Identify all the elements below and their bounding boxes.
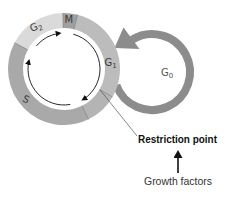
phase-late-g1-segment [85,93,106,112]
label-m: M [65,14,74,25]
growth-factors-label: Growth factors [144,176,212,187]
label-g0: G0 [161,67,173,80]
phase-s-segment [16,46,86,117]
cell-cycle-ring [16,21,113,118]
cycle-direction-arrows [28,33,100,105]
cell-cycle-diagram: G2 M G1 S G0 Restriction point Growth fa… [0,0,229,199]
restriction-point-label: Restriction point [138,134,218,145]
g0-loop [115,28,191,111]
arrow-m-to-g1-icon [73,34,100,99]
